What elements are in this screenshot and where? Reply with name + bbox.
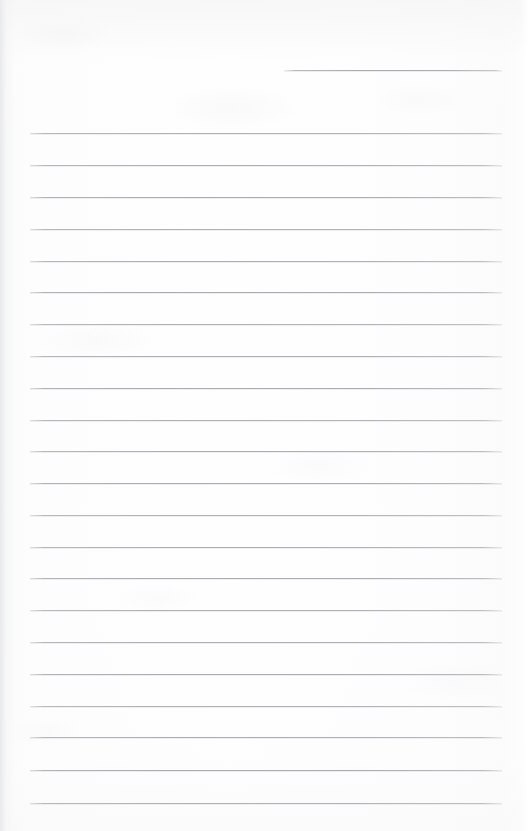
notebook-page	[0, 0, 528, 831]
header-short-rule	[284, 70, 502, 71]
writing-area[interactable]	[30, 120, 502, 820]
